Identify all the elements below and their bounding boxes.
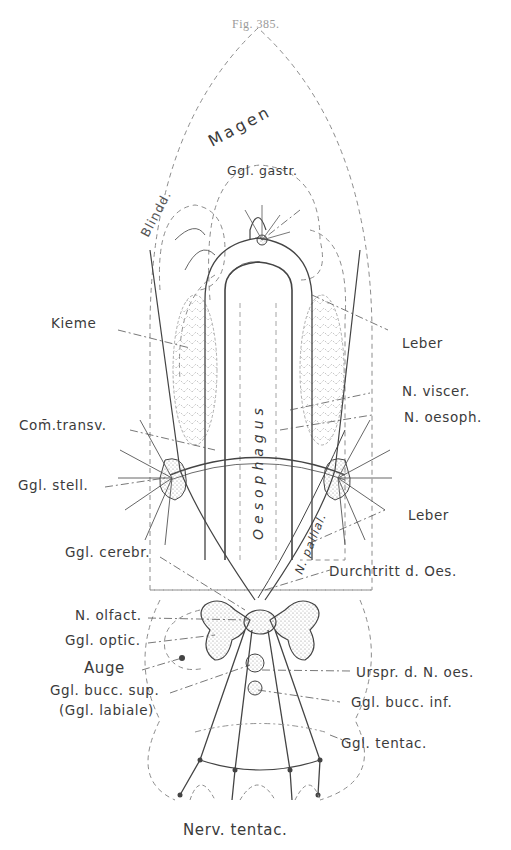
ggl-optic-right <box>270 601 319 660</box>
label-ggl-gastr: Ggl. gastr. <box>227 165 298 178</box>
label-n-viscer: N. viscer. <box>402 385 470 399</box>
ggl-bucc-inf-node <box>248 681 262 695</box>
gill-right <box>300 295 344 445</box>
label-ggl-optic: Ggl. optic. <box>65 634 141 648</box>
label-auge: Auge <box>84 661 125 676</box>
figure-caption: Fig. 385. <box>232 17 280 32</box>
label-ggl-labiale: (Ggl. labiale) <box>59 704 154 718</box>
label-magen: Magen <box>205 101 275 150</box>
tentacle-ring <box>200 760 320 770</box>
label-ggl-bucc-sup: Ggl. bucc. sup. <box>50 684 159 698</box>
label-n-pallial: N. pallial. <box>292 511 329 576</box>
label-ggl-stell: Ggl. stell. <box>18 479 88 493</box>
gill-left <box>173 295 217 445</box>
label-oesophagus: Oesophagus <box>250 403 266 540</box>
label-leber-lower: Leber <box>408 509 449 523</box>
label-n-olfact: N. olfact. <box>75 609 142 623</box>
label-nerv-tentac: Nerv. tentac. <box>183 823 287 838</box>
blinddarm-outline <box>159 205 225 290</box>
label-com-transv: Com̄.transv. <box>19 419 107 433</box>
label-n-oesoph: N. oesoph. <box>404 411 482 425</box>
label-ggl-cerebr: Ggl. cerebr. <box>65 546 150 560</box>
label-leber-upper: Leber <box>402 337 443 351</box>
label-ggl-tentac: Ggl. tentac. <box>341 737 427 751</box>
ggl-stell-right <box>324 459 350 500</box>
ggl-stell-left <box>160 459 186 500</box>
ggl-cerebr-node <box>244 610 276 634</box>
magen-outline <box>209 165 323 300</box>
anatomical-figure: Magen Blindd. Oesophagus N. pallial. Fig… <box>0 0 511 850</box>
label-blinddarm: Blindd. <box>137 188 174 239</box>
ggl-optic-left <box>201 601 250 660</box>
label-urspr: Urspr. d. N. oes. <box>356 666 474 680</box>
label-kieme: Kieme <box>51 317 96 331</box>
label-ggl-bucc-inf: Ggl. bucc. inf. <box>351 696 452 710</box>
label-durchtritt: Durchtritt d. Oes. <box>329 565 457 579</box>
